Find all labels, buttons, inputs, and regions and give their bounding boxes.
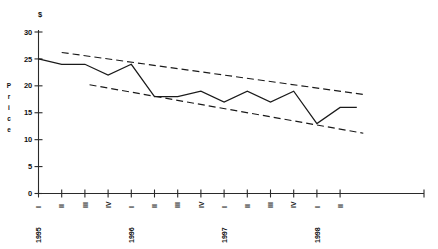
chart-canvas: $ 051015202530 Price IIIIIIIVIIIIIIIVIII… [0, 0, 438, 249]
x-year-label-1995: 1995 [35, 227, 42, 243]
y-axis-title-letter-1: r [8, 93, 11, 100]
y-axis-tick-labels: 051015202530 [24, 28, 32, 199]
y-axis-title-letter-0: P [7, 82, 12, 89]
x-quarter-label-11: IV [290, 201, 297, 208]
x-axis-quarter-labels: IIIIIIIVIIIIIIIVIIIIIIIVIII [35, 201, 344, 208]
x-quarter-label-5: II [151, 204, 158, 208]
x-year-label-1996: 1996 [128, 227, 135, 243]
x-quarter-label-2: III [82, 202, 89, 208]
x-quarter-label-9: II [244, 204, 251, 208]
currency-symbol-label: $ [38, 10, 43, 19]
x-quarter-label-7: IV [198, 201, 205, 208]
x-quarter-label-4: I [128, 206, 135, 208]
x-quarter-label-12: I [314, 206, 321, 208]
x-quarter-label-6: III [174, 202, 181, 208]
x-quarter-label-0: I [35, 206, 42, 208]
x-axis-year-labels: 1995199619971998 [35, 227, 320, 243]
y-axis-title-letter-3: c [7, 115, 11, 122]
y-tick-label-20: 20 [24, 81, 32, 90]
price-series-line [39, 59, 357, 124]
y-tick-label-10: 10 [24, 135, 32, 144]
x-quarter-label-3: IV [105, 201, 112, 208]
y-tick-label-15: 15 [24, 108, 32, 117]
price-trend-chart: $ 051015202530 Price IIIIIIIVIIIIIIIVIII… [0, 0, 438, 249]
y-axis-title-letter-2: i [8, 104, 10, 111]
lower-trend-line [90, 85, 364, 133]
y-tick-label-0: 0 [28, 189, 32, 198]
x-quarter-label-10: III [267, 202, 274, 208]
x-year-label-1998: 1998 [314, 227, 321, 243]
x-quarter-label-8: I [221, 206, 228, 208]
x-year-label-1997: 1997 [221, 227, 228, 243]
x-quarter-label-1: II [58, 204, 65, 208]
y-tick-label-30: 30 [24, 28, 32, 37]
y-tick-label-25: 25 [24, 55, 32, 64]
x-quarter-label-13: II [337, 204, 344, 208]
y-axis-title: Price [7, 82, 12, 133]
y-tick-label-5: 5 [28, 162, 32, 171]
y-axis-title-letter-4: e [7, 126, 11, 133]
